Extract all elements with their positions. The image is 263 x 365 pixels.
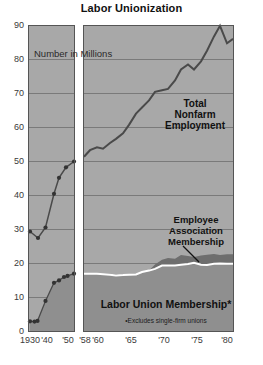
ytick-70: 70 — [2, 89, 24, 98]
xtick-1980: '80 — [218, 336, 236, 345]
annotation-employee-assoc-line-1: Employee — [150, 214, 242, 225]
ytick-90: 90 — [2, 21, 24, 30]
chart-footnote: •Excludes single-firm unions — [86, 317, 246, 324]
chart-subtitle: Number in Millions — [34, 48, 112, 59]
annotation-total-nonfarm-line-2: Nonfarm — [152, 109, 238, 120]
ytick-50: 50 — [2, 157, 24, 166]
annotation-employee-assoc-line-3: Membership — [150, 236, 242, 247]
xtick-1960: '60 — [89, 336, 107, 345]
annotation-total-nonfarm-employment: Total Nonfarm Employment — [152, 98, 238, 131]
annotation-labor-union-membership: Labor Union Membership* — [86, 299, 246, 310]
annotation-total-nonfarm-line-1: Total — [152, 98, 238, 109]
annotation-employee-association-membership: Employee Association Membership — [150, 214, 242, 247]
ytick-60: 60 — [2, 123, 24, 132]
ytick-30: 30 — [2, 225, 24, 234]
xtick-1970: '70 — [155, 336, 173, 345]
ytick-40: 40 — [2, 191, 24, 200]
chart-figure: Labor Unionization — [0, 0, 263, 365]
annotation-employee-assoc-line-2: Association — [150, 225, 242, 236]
xtick-1940: '40 — [37, 336, 57, 345]
xtick-1950: '50 — [58, 336, 78, 345]
xtick-1965: '65 — [122, 336, 140, 345]
ytick-20: 20 — [2, 259, 24, 268]
ytick-10: 10 — [2, 293, 24, 302]
ytick-80: 80 — [2, 55, 24, 64]
xtick-1975: '75 — [188, 336, 206, 345]
annotation-total-nonfarm-line-3: Employment — [152, 120, 238, 131]
